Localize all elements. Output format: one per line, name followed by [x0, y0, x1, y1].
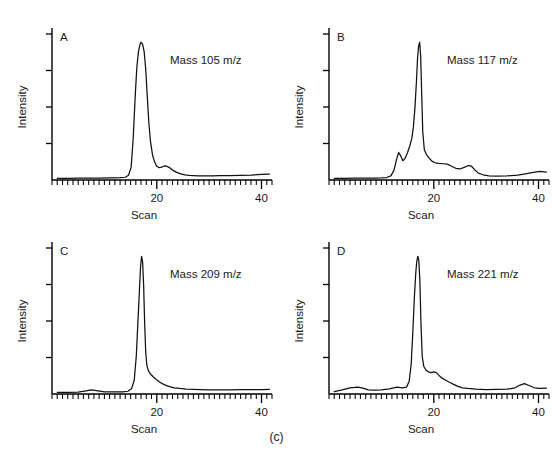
y-axis-title: Intensity	[293, 299, 305, 342]
x-axis-ticks	[52, 394, 272, 403]
x-tick-label: 20	[427, 406, 440, 418]
series-annotation: Mass 221 m/z	[447, 268, 519, 280]
x-axis-tick-labels: 2040	[427, 406, 544, 418]
x-axis-ticks	[329, 394, 549, 403]
y-axis-ticks	[323, 34, 329, 144]
panel-letter: D	[337, 245, 345, 257]
chart-panel-b: 2040ScanIntensityBMass 117 m/z	[277, 8, 553, 219]
figure-caption: (c)	[0, 430, 553, 444]
figure-container: 2040ScanIntensityAMass 105 m/z 2040ScanI…	[0, 0, 553, 461]
x-axis-title: Scan	[408, 209, 434, 219]
x-tick-label: 40	[532, 192, 545, 204]
x-axis-tick-labels: 2040	[150, 406, 267, 418]
x-axis-tick-labels: 2040	[150, 192, 267, 204]
y-axis-title: Intensity	[16, 299, 28, 342]
x-axis-ticks	[52, 180, 272, 189]
x-tick-label: 20	[150, 406, 163, 418]
panel-letter: B	[337, 31, 345, 43]
chart-panel-a: 2040ScanIntensityAMass 105 m/z	[0, 8, 276, 219]
y-axis-ticks	[46, 248, 52, 358]
x-axis-tick-labels: 2040	[427, 192, 544, 204]
series-annotation: Mass 105 m/z	[170, 54, 242, 66]
series-annotation: Mass 209 m/z	[170, 268, 242, 280]
x-tick-label: 20	[427, 192, 440, 204]
chromatogram-plot: 2040ScanIntensityBMass 117 m/z	[277, 8, 553, 219]
chart-panel-c: 2040ScanIntensityCMass 209 m/z	[0, 222, 276, 433]
x-tick-label: 20	[150, 192, 163, 204]
chromatogram-plot: 2040ScanIntensityAMass 105 m/z	[0, 8, 276, 219]
x-tick-label: 40	[532, 406, 545, 418]
chromatogram-plot: 2040ScanIntensityDMass 221 m/z	[277, 222, 553, 433]
x-tick-label: 40	[255, 406, 268, 418]
panel-letter: A	[60, 31, 68, 43]
y-axis-title: Intensity	[293, 85, 305, 128]
x-tick-label: 40	[255, 192, 268, 204]
x-axis-title: Scan	[131, 209, 157, 219]
x-axis-ticks	[329, 180, 549, 189]
panel-letter: C	[60, 245, 68, 257]
y-axis-ticks	[323, 248, 329, 358]
chart-panel-d: 2040ScanIntensityDMass 221 m/z	[277, 222, 553, 433]
chromatogram-plot: 2040ScanIntensityCMass 209 m/z	[0, 222, 276, 433]
y-axis-title: Intensity	[16, 85, 28, 128]
y-axis-ticks	[46, 34, 52, 144]
series-annotation: Mass 117 m/z	[447, 54, 518, 66]
